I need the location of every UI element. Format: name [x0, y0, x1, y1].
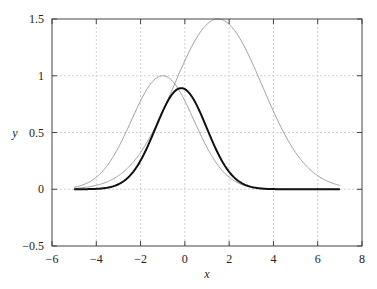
x-tick-label: 4 — [270, 252, 276, 266]
x-tick-labels: −6−4−202468 — [46, 252, 365, 266]
y-tick-label: 0.5 — [29, 126, 44, 140]
plot-curves — [74, 19, 340, 189]
y-axis-label: y — [11, 126, 18, 140]
x-tick-label: 8 — [359, 252, 365, 266]
x-tick-label: 6 — [315, 252, 321, 266]
y-tick-label: 1.5 — [29, 12, 44, 26]
plot-frame — [52, 19, 362, 246]
curve-product — [74, 88, 340, 189]
x-tick-label: 0 — [182, 252, 188, 266]
y-tick-label: 0 — [38, 182, 44, 196]
line-chart: −6−4−202468 −0.500.511.5 x y — [0, 0, 377, 289]
y-tick-label: −0.5 — [22, 239, 44, 253]
grid-lines — [52, 19, 362, 246]
x-tick-label: 2 — [226, 252, 232, 266]
axis-ticks — [52, 19, 362, 246]
y-tick-labels: −0.500.511.5 — [22, 12, 44, 253]
y-tick-label: 1 — [38, 69, 44, 83]
x-axis-label: x — [203, 267, 210, 281]
x-tick-label: −6 — [46, 252, 59, 266]
x-tick-label: −4 — [90, 252, 103, 266]
curve-gaussian-b — [74, 19, 340, 188]
x-tick-label: −2 — [134, 252, 147, 266]
